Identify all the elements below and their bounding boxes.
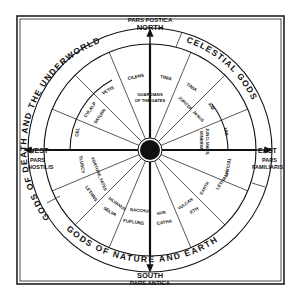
label-minerva: MINERVA — [199, 131, 204, 150]
label-selva: SELVA — [102, 206, 117, 218]
label-tlusch: TLUSCV — [78, 155, 86, 174]
east-label: EAST — [258, 147, 277, 154]
nature-gods-arc: GODS OF NATURE AND EARTH — [64, 224, 220, 265]
label-uni: UNI — [223, 127, 229, 136]
label-bacchus: BACCHUS — [130, 207, 151, 214]
label-saturn: SATURN — [93, 108, 107, 125]
label-fufluns: FUFLUNS — [123, 218, 144, 226]
label-tinia-right: TINIA — [185, 82, 198, 93]
label-juno: JUNO, MARS, — [205, 128, 210, 155]
west-region-label-2: HOSTILIS — [28, 164, 54, 170]
label-sun: SUN — [156, 210, 166, 216]
west-region-label-1: PARS — [30, 157, 45, 163]
north-label: NORTH — [137, 23, 164, 32]
east-region-label-1: PARS — [262, 157, 277, 163]
label-tecum: TECUM — [224, 158, 232, 175]
label-ani: ANI — [207, 102, 216, 111]
label-cel: CEL — [74, 127, 81, 137]
center-hub — [140, 140, 160, 160]
label-cilens: CILENS — [127, 73, 144, 81]
label-lethns: LETHNS — [84, 185, 98, 203]
separator-se — [252, 183, 265, 187]
label-guardians-2: OF THE GATES — [135, 98, 166, 103]
west-label: WEST — [28, 147, 49, 154]
label-catha: CATHA — [156, 218, 173, 226]
etruscan-sky-diagram: PARS POSTICA NORTH SOUTH PARS ANTICA WES… — [0, 0, 301, 301]
label-guardians-1: GUARDIANS — [137, 92, 163, 97]
label-letham: LETHAM — [215, 172, 230, 190]
label-vetis: VETIS — [101, 85, 115, 96]
label-eth: ETH — [189, 206, 199, 215]
east-region-label-2: FAMILIARIS — [252, 164, 283, 170]
south-label: SOUTH — [137, 271, 163, 280]
celestial-gods-arc: CELESTIAL GODS — [185, 34, 259, 102]
south-region-label: PARS ANTICA — [130, 280, 171, 286]
separator-ne — [176, 32, 182, 47]
label-earth: EARTH — [199, 180, 211, 195]
label-tinia-top: TINIA — [160, 74, 173, 81]
